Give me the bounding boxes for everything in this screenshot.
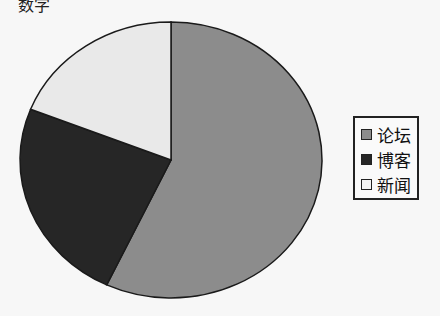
legend-label: 论坛: [377, 122, 411, 147]
legend-label: 新闻: [377, 172, 411, 197]
legend-swatch-news: [361, 179, 372, 190]
legend-swatch-blog: [361, 154, 372, 165]
chart-legend: 论坛 博客 新闻: [353, 116, 419, 200]
legend-item-news: 新闻: [361, 172, 417, 197]
legend-item-forum: 论坛: [361, 122, 417, 147]
legend-label: 博客: [377, 147, 411, 172]
pie-slices: [20, 22, 322, 298]
legend-item-blog: 博客: [361, 147, 417, 172]
legend-swatch-forum: [361, 129, 372, 140]
